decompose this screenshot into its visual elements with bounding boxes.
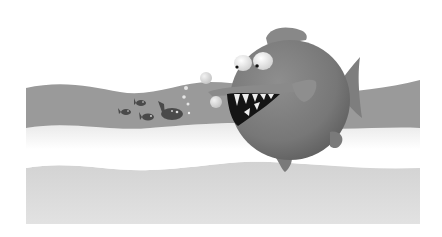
- pupil-right: [255, 64, 259, 68]
- piranha-illustration: [0, 0, 442, 237]
- bubble: [187, 103, 190, 106]
- upper-wave: [26, 80, 420, 129]
- lower-wave: [26, 160, 420, 224]
- bubble: [210, 96, 222, 108]
- pupil-left: [235, 65, 238, 68]
- illustration-canvas: Cartoon piranha with sharp teeth chasing…: [0, 0, 442, 237]
- bubble: [200, 72, 212, 84]
- bubble: [188, 112, 190, 114]
- eye-left: [234, 55, 252, 71]
- bubble: [182, 95, 186, 99]
- bubble: [184, 86, 188, 90]
